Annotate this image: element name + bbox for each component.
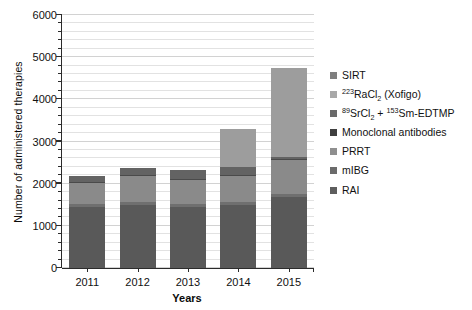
bar-segment bbox=[170, 180, 206, 204]
bar-2013 bbox=[170, 170, 206, 268]
legend-item-label: 223RaCl2 (Xofigo) bbox=[342, 89, 421, 100]
bar-segment bbox=[271, 68, 307, 157]
x-tick-mark bbox=[238, 268, 239, 272]
y-tick-mark bbox=[58, 48, 62, 49]
y-tick-mark bbox=[58, 216, 62, 217]
y-tick-label: 1000 bbox=[21, 221, 57, 231]
stacked-bar-chart-figure: Number of administered therapies 0100020… bbox=[0, 0, 472, 310]
y-tick-mark bbox=[58, 115, 62, 116]
legend-item-label: Monoclonal antibodies bbox=[342, 127, 447, 138]
chart-legend: SIRT223RaCl2 (Xofigo)89SrCl2 + 153Sm-EDT… bbox=[330, 70, 472, 204]
bar-segment bbox=[170, 207, 206, 268]
legend-item-label: 89SrCl2 + 153Sm-EDTMP bbox=[342, 108, 454, 119]
bar-segment bbox=[220, 129, 256, 167]
y-tick-mark bbox=[58, 107, 62, 108]
y-tick-label: 4000 bbox=[21, 94, 57, 104]
bar-segment bbox=[271, 197, 307, 268]
legend-item[interactable]: PRRT bbox=[330, 146, 472, 157]
legend-item-label: PRRT bbox=[342, 146, 370, 157]
y-tick-mark bbox=[56, 267, 62, 268]
y-tick-label: 0 bbox=[21, 263, 57, 273]
y-tick-mark bbox=[58, 31, 62, 32]
y-tick-mark bbox=[56, 182, 62, 183]
legend-swatch-icon bbox=[330, 129, 337, 136]
plot-area: 20112012201320142015 bbox=[61, 15, 314, 268]
bar-segment bbox=[220, 167, 256, 175]
legend-swatch-icon bbox=[330, 148, 337, 155]
y-tick-mark bbox=[58, 65, 62, 66]
y-tick-mark bbox=[56, 98, 62, 99]
y-tick-mark bbox=[58, 259, 62, 260]
gridline-minor bbox=[62, 48, 314, 49]
legend-swatch-icon bbox=[330, 91, 337, 98]
legend-item[interactable]: Monoclonal antibodies bbox=[330, 127, 472, 138]
y-tick-mark bbox=[58, 22, 62, 23]
gridline-minor bbox=[62, 65, 314, 66]
legend-swatch-icon bbox=[330, 110, 337, 117]
bar-segment bbox=[120, 168, 156, 175]
y-tick-mark bbox=[56, 56, 62, 57]
y-tick-mark bbox=[58, 73, 62, 74]
legend-swatch-icon bbox=[330, 72, 337, 79]
legend-item[interactable]: mIBG bbox=[330, 165, 472, 176]
y-tick-mark bbox=[58, 208, 62, 209]
bar-segment bbox=[120, 205, 156, 268]
y-tick-mark bbox=[58, 250, 62, 251]
bar-segment bbox=[220, 176, 256, 202]
x-tick-mark bbox=[289, 268, 290, 272]
y-tick-mark bbox=[58, 166, 62, 167]
bar-segment bbox=[271, 160, 307, 194]
bar-2014 bbox=[220, 129, 256, 268]
bar-2015 bbox=[271, 68, 307, 268]
x-tick-mark bbox=[87, 268, 88, 272]
legend-item-label: mIBG bbox=[342, 165, 369, 176]
gridline-major bbox=[62, 56, 314, 57]
bar-segment bbox=[120, 176, 156, 202]
y-tick-mark bbox=[58, 191, 62, 192]
legend-item[interactable]: 89SrCl2 + 153Sm-EDTMP bbox=[330, 108, 472, 119]
y-axis-tick-labels: 0100020003000400050006000 bbox=[17, 0, 57, 310]
y-tick-mark bbox=[56, 14, 62, 15]
legend-item-label: RAI bbox=[342, 185, 360, 196]
gridline-minor bbox=[62, 31, 314, 32]
bar-2012 bbox=[120, 168, 156, 268]
y-tick-mark bbox=[58, 200, 62, 201]
legend-item[interactable]: RAI bbox=[330, 185, 472, 196]
y-tick-mark bbox=[56, 225, 62, 226]
bar-segment bbox=[69, 183, 105, 205]
y-tick-mark bbox=[56, 140, 62, 141]
y-tick-mark bbox=[58, 132, 62, 133]
bar-segment bbox=[220, 205, 256, 268]
legend-item-label: SIRT bbox=[342, 70, 366, 81]
x-tick-mark bbox=[138, 268, 139, 272]
y-tick-label: 6000 bbox=[21, 10, 57, 20]
legend-swatch-icon bbox=[330, 167, 337, 174]
y-tick-mark bbox=[58, 157, 62, 158]
y-tick-mark bbox=[58, 39, 62, 40]
bar-2011 bbox=[69, 176, 105, 268]
y-tick-label: 5000 bbox=[21, 52, 57, 62]
legend-item[interactable]: SIRT bbox=[330, 70, 472, 81]
y-tick-mark bbox=[58, 81, 62, 82]
y-tick-mark bbox=[58, 174, 62, 175]
y-tick-mark bbox=[58, 233, 62, 234]
y-tick-label: 3000 bbox=[21, 137, 57, 147]
gridline-major bbox=[62, 14, 314, 15]
x-tick-mark bbox=[313, 268, 314, 272]
y-tick-mark bbox=[58, 124, 62, 125]
x-tick-label: 2015 bbox=[259, 276, 319, 288]
legend-swatch-icon bbox=[330, 187, 337, 194]
bar-segment bbox=[170, 170, 206, 179]
x-axis-title: Years bbox=[61, 292, 313, 304]
x-tick-mark bbox=[188, 268, 189, 272]
bar-segment bbox=[69, 207, 105, 268]
y-tick-mark bbox=[58, 90, 62, 91]
legend-item[interactable]: 223RaCl2 (Xofigo) bbox=[330, 89, 472, 100]
y-tick-mark bbox=[58, 149, 62, 150]
y-tick-label: 2000 bbox=[21, 179, 57, 189]
gridline-minor bbox=[62, 22, 314, 23]
gridline-minor bbox=[62, 39, 314, 40]
y-tick-mark bbox=[58, 242, 62, 243]
